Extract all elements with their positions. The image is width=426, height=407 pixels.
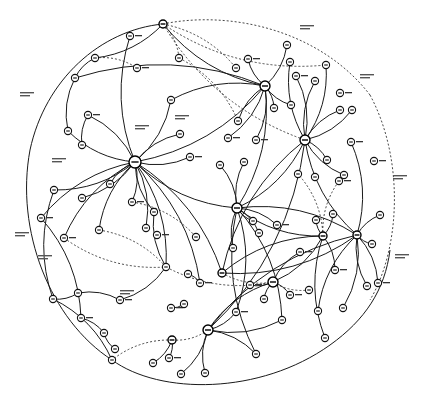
node xyxy=(149,359,156,366)
annotation-label xyxy=(38,255,52,259)
node-glyph-icon xyxy=(254,139,258,140)
node xyxy=(192,233,199,240)
annotation-label xyxy=(393,175,407,179)
ring-arc xyxy=(370,95,394,300)
node-label-mark xyxy=(340,269,347,270)
node-label-mark xyxy=(379,160,386,161)
edge xyxy=(112,340,172,360)
node-label-mark xyxy=(205,282,212,283)
node-glyph-icon xyxy=(178,133,182,134)
edge xyxy=(305,110,352,140)
node-glyph-icon xyxy=(234,311,238,312)
node-glyph-icon xyxy=(39,217,43,218)
node-label-mark xyxy=(253,58,260,59)
edge xyxy=(153,212,166,267)
node-label-mark xyxy=(135,35,142,36)
annotation-label xyxy=(20,92,34,96)
node-glyph-icon xyxy=(333,269,337,270)
node xyxy=(128,198,144,205)
annotation-label xyxy=(15,232,29,236)
node-label-mark xyxy=(255,284,262,285)
node-glyph-icon xyxy=(186,273,190,274)
node-glyph-icon xyxy=(272,107,276,108)
node-glyph-icon xyxy=(307,289,311,290)
node-glyph-icon xyxy=(130,201,134,202)
hub-glyph-icon xyxy=(205,329,211,331)
node-glyph-icon xyxy=(342,174,346,175)
hub-h8 xyxy=(203,325,213,335)
annotation-label xyxy=(52,158,66,162)
annotation-label xyxy=(135,125,149,129)
node xyxy=(111,345,118,352)
node-glyph-icon xyxy=(102,332,106,333)
node-glyph-icon xyxy=(194,236,198,237)
node-glyph-icon xyxy=(155,234,159,235)
label-text-mark xyxy=(393,178,403,179)
node-glyph-icon xyxy=(316,310,320,311)
node-glyph-icon xyxy=(118,299,122,300)
node-glyph-icon xyxy=(51,298,55,299)
node-label-mark xyxy=(142,67,149,68)
edges xyxy=(41,24,380,374)
label-text-mark xyxy=(300,28,310,29)
node-glyph-icon xyxy=(246,58,250,59)
node-glyph-icon xyxy=(151,362,155,363)
node-glyph-icon xyxy=(325,159,329,160)
node xyxy=(232,64,239,71)
label-text-mark xyxy=(360,77,370,78)
node-glyph-icon xyxy=(372,160,376,161)
node-label-mark xyxy=(137,201,144,202)
node xyxy=(260,295,267,302)
network-diagram xyxy=(0,0,426,407)
node-glyph-icon xyxy=(188,156,192,157)
node-glyph-icon xyxy=(113,348,117,349)
label-text-mark xyxy=(38,255,52,256)
node xyxy=(240,158,247,165)
node-glyph-icon xyxy=(262,298,266,299)
node-glyph-icon xyxy=(313,176,317,177)
node-glyph-icon xyxy=(251,220,255,221)
hub-glyph-icon xyxy=(355,234,360,236)
node xyxy=(286,291,302,298)
hub-h6 xyxy=(218,269,226,277)
edge xyxy=(163,24,305,140)
hub-h10 xyxy=(319,232,327,240)
node-label-mark xyxy=(93,114,100,115)
node-label-mark xyxy=(241,311,248,312)
node-glyph-icon xyxy=(280,319,284,320)
node xyxy=(252,136,268,143)
node-label-mark xyxy=(69,237,76,238)
hub-h2 xyxy=(159,20,167,28)
node xyxy=(165,354,181,361)
node-glyph-icon xyxy=(254,353,258,354)
ring-arc xyxy=(330,250,390,345)
hub-glyph-icon xyxy=(131,161,138,163)
node xyxy=(311,173,318,180)
node xyxy=(74,289,81,296)
node xyxy=(126,32,142,39)
edge xyxy=(81,115,88,145)
node-glyph-icon xyxy=(52,189,56,190)
hub-glyph-icon xyxy=(234,207,240,209)
edge xyxy=(323,181,339,236)
edge xyxy=(135,162,237,208)
node-glyph-icon xyxy=(365,285,369,286)
node-glyph-icon xyxy=(231,247,235,248)
node-glyph-icon xyxy=(296,173,300,174)
node-label-mark xyxy=(295,294,302,295)
node-label-mark xyxy=(344,180,351,181)
label-text-mark xyxy=(395,257,405,258)
node xyxy=(294,170,301,177)
node xyxy=(347,138,363,145)
ring-arc xyxy=(30,24,163,150)
node xyxy=(108,356,115,363)
label-text-mark xyxy=(395,254,409,255)
node xyxy=(311,77,318,84)
node xyxy=(278,316,285,323)
node xyxy=(142,224,149,231)
label-text-mark xyxy=(52,158,66,159)
node-label-mark xyxy=(174,357,181,358)
node xyxy=(376,211,383,218)
node-glyph-icon xyxy=(182,303,186,304)
node-glyph-icon xyxy=(226,137,230,138)
